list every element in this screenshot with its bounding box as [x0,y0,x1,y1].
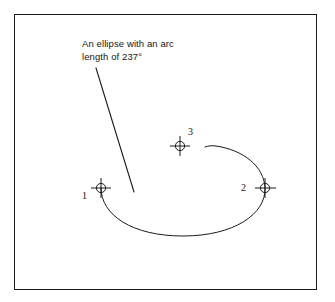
point-label-1: 1 [82,191,87,201]
point-label-2: 2 [241,183,246,193]
annotation-line-1: An ellipse with an arc [82,38,174,51]
annotation-line-2: length of 237° [82,51,174,64]
arc-annotation-text: An ellipse with an arc length of 237° [82,38,174,63]
point-label-3: 3 [188,127,193,137]
figure-root: An ellipse with an arc length of 237° 1 … [0,0,335,302]
